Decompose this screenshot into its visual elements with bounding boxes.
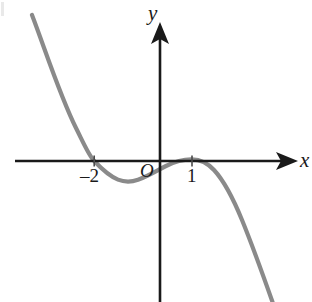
origin-label: O — [140, 161, 154, 180]
cubic-curve — [32, 15, 273, 302]
x-axis-label: x — [300, 150, 309, 171]
y-axis-label: y — [148, 3, 157, 24]
cubic-graph-figure — [0, 0, 312, 302]
x-tick-label-one: 1 — [187, 166, 197, 185]
x-tick-label-negative-two: –2 — [80, 166, 99, 185]
